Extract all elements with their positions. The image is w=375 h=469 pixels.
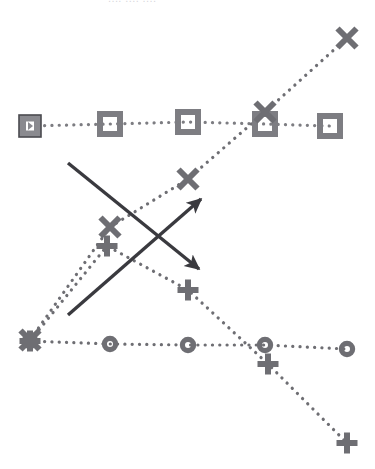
marker-circle-4[interactable] xyxy=(341,343,352,354)
marker-x-2[interactable] xyxy=(179,170,198,189)
marker-square-2[interactable] xyxy=(178,112,198,132)
chart-canvas[interactable]: .... .... .... xyxy=(0,0,375,469)
marker-square-0-selected[interactable] xyxy=(19,115,41,137)
series-markers[interactable] xyxy=(19,29,358,454)
series-connector-lines xyxy=(30,38,347,443)
marker-x-4[interactable] xyxy=(338,29,357,48)
series-line-circles xyxy=(30,341,347,349)
scatter-line-plot[interactable] xyxy=(0,0,375,469)
marker-x-1[interactable] xyxy=(101,218,120,237)
marker-plus-1[interactable] xyxy=(97,236,118,257)
marker-circle-2[interactable] xyxy=(182,339,193,350)
